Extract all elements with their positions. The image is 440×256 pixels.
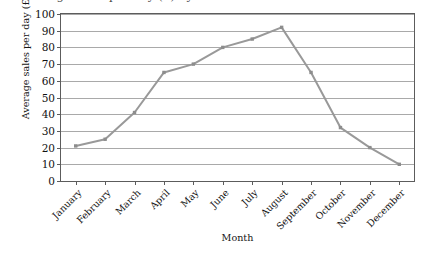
y-tick-mark [57, 181, 61, 182]
chart-figure: Average sales per day (£) by month Avera… [0, 0, 440, 256]
y-tick-label: 10 [42, 158, 55, 170]
data-point-marker [103, 138, 106, 141]
data-point-marker [398, 163, 401, 166]
series-line [76, 27, 400, 164]
x-tick-mark [193, 181, 194, 185]
data-point-marker [74, 144, 77, 147]
x-tick-label: June [208, 187, 231, 210]
x-tick-mark [370, 181, 371, 185]
data-point-marker [280, 26, 283, 29]
y-tick-label: 80 [42, 41, 55, 53]
x-tick-mark [252, 181, 253, 185]
x-tick-label: April [148, 187, 172, 211]
data-point-marker [162, 71, 165, 74]
x-tick-mark [311, 181, 312, 185]
data-point-marker [251, 37, 254, 40]
data-point-marker [133, 111, 136, 114]
y-tick-label: 70 [42, 58, 55, 70]
x-tick-mark [223, 181, 224, 185]
y-tick-label: 20 [42, 142, 55, 154]
line-series [61, 14, 414, 181]
y-tick-label: 100 [35, 8, 55, 20]
x-axis-title: Month [60, 232, 415, 243]
x-tick-mark [399, 181, 400, 185]
chart-title-text: Average sales per day (£) by month [22, 0, 235, 3]
data-point-marker [309, 71, 312, 74]
x-tick-label: July [239, 187, 260, 208]
y-tick-label: 30 [42, 125, 55, 137]
y-tick-label: 60 [42, 75, 55, 87]
chart-title-clipped: Average sales per day (£) by month [0, 0, 440, 5]
x-tick-label: March [113, 187, 143, 217]
y-tick-label: 40 [42, 108, 55, 120]
plot-area: 0102030405060708090100 JanuaryFebruaryMa… [60, 13, 415, 182]
x-tick-label: May [179, 187, 201, 209]
x-tick-mark [76, 181, 77, 185]
x-tick-mark [340, 181, 341, 185]
data-point-marker [339, 126, 342, 129]
x-tick-mark [135, 181, 136, 185]
data-point-marker [192, 62, 195, 65]
data-point-marker [368, 146, 371, 149]
x-tick-mark [105, 181, 106, 185]
y-tick-label: 90 [42, 25, 55, 37]
y-tick-label: 0 [48, 175, 55, 187]
data-point-marker [221, 46, 224, 49]
y-axis-title: Average sales per day (£) [20, 0, 31, 128]
x-tick-mark [164, 181, 165, 185]
y-tick-label: 50 [42, 92, 55, 104]
x-tick-mark [282, 181, 283, 185]
